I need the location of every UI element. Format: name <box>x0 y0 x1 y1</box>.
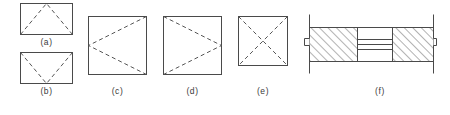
dashed-right-vertex-lines <box>164 17 222 75</box>
figure-f-drawing <box>303 12 437 76</box>
dashed-valley-lines <box>21 53 73 84</box>
figure-d-drawing <box>163 16 222 75</box>
figure-b-caption: (b) <box>20 87 73 96</box>
figure-a-drawing <box>20 3 73 35</box>
outline-square <box>164 17 222 75</box>
left-step-notch <box>305 39 310 46</box>
dashed-left-vertex-lines <box>89 17 147 75</box>
figure-c <box>88 16 147 75</box>
figure-a-caption: (a) <box>20 38 73 47</box>
figure-d-caption: (d) <box>163 87 222 96</box>
outline-rectangle <box>21 4 73 35</box>
figure-b-drawing <box>20 52 73 84</box>
figure-c-drawing <box>88 16 147 75</box>
technical-drawing-sheet: (a) (b) (c) (d) (e) <box>0 0 450 115</box>
figure-f <box>303 12 437 76</box>
figure-e-drawing <box>238 16 288 66</box>
right-step-notch <box>434 39 437 46</box>
figure-e-caption: (e) <box>238 87 288 96</box>
left-hatched-block <box>310 28 358 62</box>
right-hatched-block <box>393 28 434 62</box>
outline-rectangle <box>21 53 73 84</box>
figure-f-caption: (f) <box>340 87 420 96</box>
figure-e <box>238 16 288 66</box>
figure-c-caption: (c) <box>88 87 147 96</box>
figure-d <box>163 16 222 75</box>
dashed-peak-lines <box>21 4 73 35</box>
figure-b <box>20 52 73 84</box>
outline-square <box>89 17 147 75</box>
figure-a <box>20 3 73 35</box>
